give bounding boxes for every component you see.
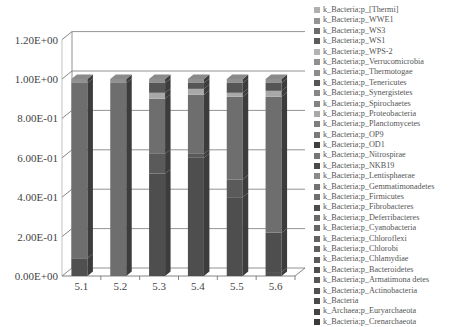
legend-swatch [314,288,320,294]
legend-label: k_Bacteria;p_WPS-2 [323,47,393,57]
y-tick-label: 2.00E-01 [17,231,58,243]
x-tick-label: 5.2 [113,280,127,292]
legend-item: k_Archaea;p_Euryarchaeota [314,306,464,316]
legend-item: k_Bacteria;p_Firmicutes [314,192,464,202]
y-tick-label: 1.20E+00 [15,34,59,46]
legend-item: k_Bacteria;p_Tenericutes [314,78,464,88]
legend-swatch [314,225,320,231]
legend-swatch [314,246,320,252]
legend-swatch [314,267,320,273]
legend-label: k_Bacteria;p_Tenericutes [323,78,407,88]
legend-swatch [314,298,320,304]
legend-label: k_Bacteria;p_WS3 [323,26,385,36]
legend-label: k_Bacteria;p_Fibrobacteres [323,202,413,212]
x-tick-label: 5.3 [152,280,166,292]
y-axis-ticks: 0.00E+002.00E-014.00E-016.00E-018.00E-01… [15,34,59,282]
legend-item: k_Bacteria;p_WPS-2 [314,47,464,57]
legend-swatch [314,49,320,55]
legend-label: k_Bacteria;p_Gemmatimonadetes [323,182,434,192]
legend-item: k_Bacteria;p_Chlorobi [314,244,464,254]
legend-label: k_Bacteria;p_OP9 [323,130,383,140]
legend-item: k_Bacteria;p_Proteobacteria [314,109,464,119]
legend-swatch [314,236,320,242]
legend-label: k_Bacteria;p_Proteobacteria [323,109,416,119]
legend-item: k_Bacteria;p_Bacteroidetes [314,265,464,275]
legend-label: k_Bacteria;p_Cyanobacteria [323,223,416,233]
bar-5.5 [227,75,249,276]
legend-item: k_Bacteria;p_Cyanobacteria [314,223,464,233]
legend-item: k_Bacteria;p_WS1 [314,36,464,46]
bar-5.3 [149,75,171,276]
legend-swatch [314,277,320,283]
legend-label: k_Bacteria;p_Verrucomicrobia [323,57,424,67]
x-tick-label: 5.6 [269,280,283,292]
legend-item: k_Bacteria;p_Lentisphaerae [314,171,464,181]
legend: k_Bacteria;p_[Thermi]k_Bacteria;p_WWE1k_… [314,5,464,327]
legend-swatch [314,309,320,315]
legend-swatch [314,18,320,24]
legend-swatch [314,90,320,96]
legend-label: k_Bacteria;p_[Thermi] [323,5,398,15]
legend-swatch [314,70,320,76]
legend-swatch [314,173,320,179]
legend-label: k_Bacteria;p_Armatimona detes [323,275,429,285]
legend-swatch [314,28,320,34]
legend-item: k_Bacteria;p_Verrucomicrobia [314,57,464,67]
legend-item: k_Bacteria;p_Actinobacteria [314,286,464,296]
legend-label: k_Bacteria;p_Nitrospirae [323,150,406,160]
legend-label: k_Bacteria;p_Spirochaetes [323,99,411,109]
legend-label: k_Bacteria;p_WWE1 [323,15,393,25]
legend-label: k_Bacteria;p_Chlamydiae [323,254,409,264]
legend-item: k_Bacteria;p_Armatimona detes [314,275,464,285]
x-tick-label: 5.1 [75,280,89,292]
legend-item: k_Bacteria;p_Chlamydiae [314,254,464,264]
legend-item: k_Bacteria;p_Planctomycetes [314,119,464,129]
legend-label: k_Bacteria;p_NKB19 [323,161,394,171]
legend-swatch [314,38,320,44]
legend-swatch [314,80,320,86]
legend-item: k_Bacteria;p_WS3 [314,26,464,36]
legend-item: k_Bacteria;p_Fibrobacteres [314,202,464,212]
legend-swatch [314,184,320,190]
y-tick-label: 4.00E-01 [17,191,58,203]
y-tick-label: 1.00E+00 [15,73,59,85]
legend-swatch [314,121,320,127]
legend-swatch [314,111,320,117]
y-tick-label: 6.00E-01 [17,152,58,164]
legend-item: k_Bacteria;p_Chloroflexi [314,234,464,244]
legend-label: k_Bacteria;p_WS1 [323,36,385,46]
legend-swatch [314,257,320,263]
legend-label: k_Bacteria;p_Firmicutes [323,192,404,202]
legend-item: k_Bacteria [314,296,464,306]
legend-label: k_Bacteria;p_Planctomycetes [323,119,420,129]
legend-label: k_Bacteria;p_Actinobacteria [323,286,417,296]
legend-swatch [314,319,320,325]
legend-swatch [314,194,320,200]
x-tick-label: 5.4 [191,280,205,292]
legend-label: k_Bacteria;p_Bacteroidetes [323,265,413,275]
legend-label: k_Bacteria;p_Lentisphaerae [323,171,415,181]
legend-item: k_Bacteria;p_Gemmatimonadetes [314,182,464,192]
legend-label: k_Bacteria [323,296,358,306]
legend-label: k_Bacteria;p_Chlorobi [323,244,398,254]
legend-swatch [314,132,320,138]
legend-item: k_Bacteria;p_Thermotogae [314,67,464,77]
legend-item: k_Bacteria;p_Synergistetes [314,88,464,98]
legend-item: k_Bacteria;p_OD1 [314,140,464,150]
legend-label: k_Bacteria;p_Deferribacteres [323,213,419,223]
bar-5.6 [266,75,288,276]
legend-label: k_Archaea;p_Euryarchaeota [323,306,416,316]
legend-swatch [314,142,320,148]
y-tick-label: 8.00E-01 [17,112,58,124]
legend-swatch [314,205,320,211]
x-axis-ticks: 5.15.25.35.45.55.6 [75,276,295,292]
legend-item: k_Bacteria;p_Nitrospirae [314,150,464,160]
bar-5.1 [71,75,93,276]
bar-5.2 [110,75,132,276]
legend-label: k_Bacteria;p_Chloroflexi [323,234,407,244]
legend-swatch [314,101,320,107]
legend-swatch [314,59,320,65]
legend-item: k_Bacteria;p_Spirochaetes [314,99,464,109]
y-tick-label: 0.00E+00 [15,270,59,282]
legend-swatch [314,7,320,13]
